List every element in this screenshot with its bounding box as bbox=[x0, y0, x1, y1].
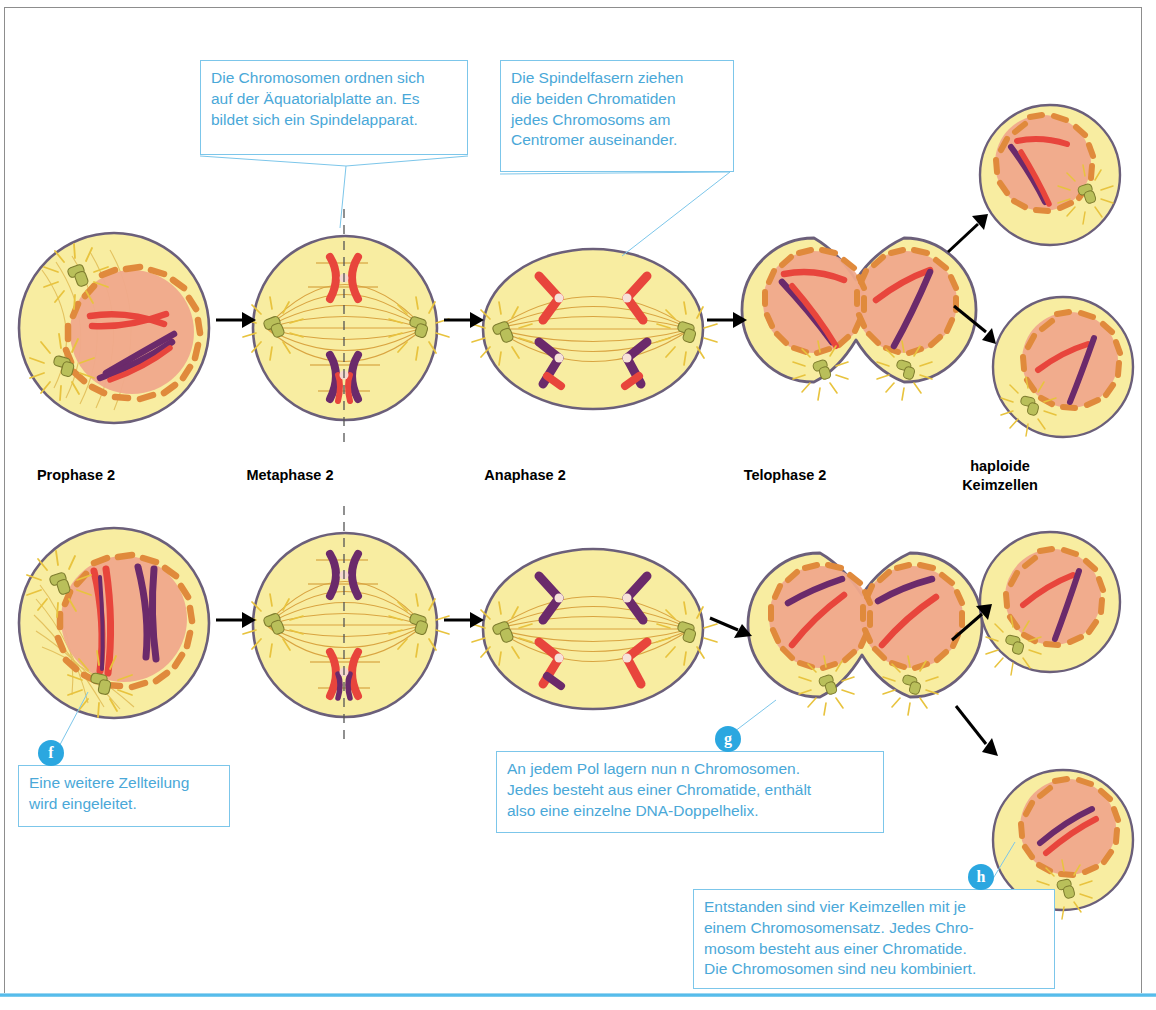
metaphase-callout: Die Chromosomen ordnen sichauf der Äquat… bbox=[200, 60, 468, 155]
phase-label-anaphase-2: Anaphase 2 bbox=[484, 466, 565, 485]
callout-line: auf der Äquatorialplatte an. Es bbox=[211, 89, 458, 110]
callout-f: Eine weitere Zellteilungwird eingeleitet… bbox=[18, 765, 230, 827]
arrow-prophase-to-metaphase-top bbox=[214, 306, 260, 334]
callout-line: wird eingeleitet. bbox=[29, 794, 220, 815]
arrow-telophase-to-keimzelle-3 bbox=[948, 600, 1002, 646]
callout-marker-h: h bbox=[968, 864, 994, 890]
arrow-telophase-to-keimzelle-2 bbox=[950, 300, 1008, 350]
cell-prophase-2-top bbox=[14, 228, 214, 428]
phase-label-prophase-2: Prophase 2 bbox=[37, 466, 115, 485]
cell-anaphase-2-bottom bbox=[481, 546, 706, 712]
callout-line: Centromer auseinander. bbox=[511, 130, 724, 151]
phase-label-line: Telophase 2 bbox=[744, 466, 827, 485]
arrow-metaphase-to-anaphase-bottom bbox=[442, 606, 488, 634]
callout-line: Die Chromosomen ordnen sich bbox=[211, 68, 458, 89]
cell-keimzelle-2 bbox=[988, 292, 1138, 442]
arrow-telophase-to-keimzelle-1 bbox=[944, 208, 998, 258]
cell-telophase-2-top bbox=[752, 230, 968, 410]
cell-metaphase-2-top bbox=[250, 225, 440, 431]
callout-g: An jedem Pol lagern nun n Chromosomen.Je… bbox=[496, 751, 884, 833]
phase-label-line: Keimzellen bbox=[962, 476, 1038, 495]
phase-label-line: Anaphase 2 bbox=[484, 466, 565, 485]
callout-marker-g: g bbox=[715, 726, 741, 752]
arrow-anaphase-to-telophase-top bbox=[705, 306, 751, 334]
callout-line: Jedes besteht aus einer Chromatide, enth… bbox=[507, 780, 874, 801]
bottom-rule bbox=[0, 993, 1156, 997]
callout-marker-f: f bbox=[38, 740, 64, 766]
phase-label-metaphase-2: Metaphase 2 bbox=[246, 466, 333, 485]
anaphase-callout: Die Spindelfasern ziehendie beiden Chrom… bbox=[500, 60, 734, 172]
callout-line: jedes Chromosoms am bbox=[511, 110, 724, 131]
phase-label-line: haploide bbox=[962, 457, 1038, 476]
phase-label-line: Prophase 2 bbox=[37, 466, 115, 485]
callout-line: einem Chromosomensatz. Jedes Chro- bbox=[704, 918, 1045, 939]
callout-line: Entstanden sind vier Keimzellen mit je bbox=[704, 897, 1045, 918]
callout-h: Entstanden sind vier Keimzellen mit jeei… bbox=[693, 889, 1055, 989]
arrow-anaphase-to-telophase-bottom bbox=[708, 608, 758, 642]
cell-anaphase-2-top bbox=[481, 246, 706, 412]
callout-line: bildet sich ein Spindelapparat. bbox=[211, 110, 458, 131]
callout-line: Die Chromosomen sind neu kombiniert. bbox=[704, 959, 1045, 980]
callout-line: also eine einzelne DNA-Doppelhelix. bbox=[507, 801, 874, 822]
phase-label-haploide-keimzellen: haploideKeimzellen bbox=[962, 457, 1038, 494]
cell-prophase-2-bottom bbox=[14, 523, 214, 723]
phase-label-line: Metaphase 2 bbox=[246, 466, 333, 485]
phase-label-telophase-2: Telophase 2 bbox=[744, 466, 827, 485]
arrow-prophase-to-metaphase-bottom bbox=[214, 606, 260, 634]
cell-metaphase-2-bottom bbox=[250, 522, 440, 728]
cell-telophase-2-bottom bbox=[758, 545, 974, 725]
callout-line: Eine weitere Zellteilung bbox=[29, 773, 220, 794]
callout-line: Die Spindelfasern ziehen bbox=[511, 68, 724, 89]
callout-line: mosom besteht aus einer Chromatide. bbox=[704, 939, 1045, 960]
arrow-telophase-to-keimzelle-4 bbox=[952, 700, 1010, 762]
arrow-metaphase-to-anaphase-top bbox=[442, 306, 488, 334]
callout-line: An jedem Pol lagern nun n Chromosomen. bbox=[507, 759, 874, 780]
callout-line: die beiden Chromatiden bbox=[511, 89, 724, 110]
